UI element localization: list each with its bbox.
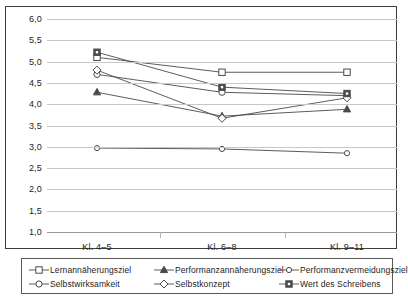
gridline-2-0 xyxy=(47,189,397,190)
legend-item-label: Lernannäherungsziel xyxy=(50,266,131,275)
y-tick-label: 4,5 xyxy=(8,79,42,88)
legend-item[interactable]: Selbstwirksamkeit xyxy=(28,277,120,291)
series-layer xyxy=(47,19,397,238)
gridline-1-5 xyxy=(47,211,397,212)
legend-item[interactable]: Lernannäherungsziel xyxy=(28,263,131,277)
gridline-3-5 xyxy=(47,126,397,127)
y-tick-label: 4,0 xyxy=(8,100,42,109)
open-square-icon xyxy=(28,264,50,276)
plot-area xyxy=(47,19,397,238)
legend-item[interactable]: Performanzvermeidungsziel xyxy=(278,263,408,277)
y-tick-label: 2,0 xyxy=(8,185,42,194)
y-axis-tick-labels: 6,05,55,04,54,03,53,02,52,01,51,0 xyxy=(6,19,42,238)
gridline-2-5 xyxy=(47,168,397,169)
x-tick-label: Kl. 4–5 xyxy=(49,242,145,252)
y-tick-label: 1,5 xyxy=(8,207,42,216)
legend-item-label: Selbstkonzept xyxy=(175,280,230,289)
open-circle-icon xyxy=(28,278,50,290)
gridline-5-0 xyxy=(47,62,397,63)
gridline-5-5 xyxy=(47,40,397,41)
legend-item-label: Wert des Schreibens xyxy=(300,280,381,289)
gridline-4-0 xyxy=(47,104,397,105)
filled-triangle-icon xyxy=(153,264,175,276)
gridline-6-0 xyxy=(47,19,397,20)
filled-square-icon xyxy=(278,278,300,290)
chart-plot-frame: 6,05,55,04,54,03,53,02,52,01,51,0 Kl. 4–… xyxy=(5,6,397,249)
legend-item-label: Performanzannäherungsziel xyxy=(175,266,284,275)
x-axis-separator-2 xyxy=(285,232,286,238)
x-tick-label: Kl. 6–8 xyxy=(174,242,270,252)
y-tick-label: 2,5 xyxy=(8,164,42,173)
legend-item-label: Selbstwirksamkeit xyxy=(50,280,120,289)
legend-item[interactable]: Performanzannäherungsziel xyxy=(153,263,284,277)
y-tick-label: 3,0 xyxy=(8,143,42,152)
x-axis-tick-labels: Kl. 4–5Kl. 6–8Kl. 9–11 xyxy=(47,239,397,256)
y-tick-label: 3,5 xyxy=(8,122,42,131)
open-circle-sm-icon xyxy=(278,264,300,276)
x-tick-label: Kl. 9–11 xyxy=(299,242,395,252)
x-axis-separator-1 xyxy=(160,232,161,238)
y-tick-label: 6,0 xyxy=(8,15,42,24)
gridline-3-0 xyxy=(47,147,397,148)
chart-legend: LernannäherungszielPerformanzannäherungs… xyxy=(21,258,393,294)
gridline-4-5 xyxy=(47,83,397,84)
legend-item[interactable]: Selbstkonzept xyxy=(153,277,230,291)
legend-item[interactable]: Wert des Schreibens xyxy=(278,277,381,291)
open-diamond-icon xyxy=(153,278,175,290)
y-tick-label: 1,0 xyxy=(8,228,42,237)
legend-item-label: Performanzvermeidungsziel xyxy=(300,266,408,275)
y-tick-label: 5,0 xyxy=(8,58,42,67)
y-tick-label: 5,5 xyxy=(8,36,42,45)
gridline-1-0 xyxy=(47,232,397,233)
